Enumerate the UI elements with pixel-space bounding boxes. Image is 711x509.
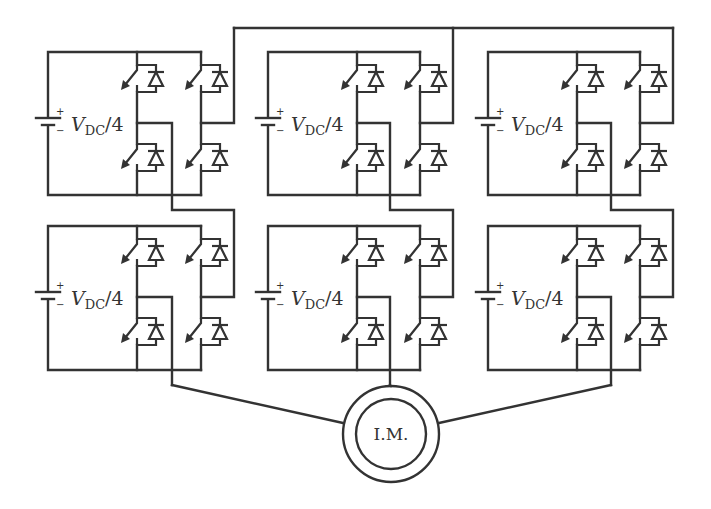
diode-bracket-top bbox=[137, 144, 156, 150]
igbt-switch bbox=[561, 318, 604, 345]
phase-output-wire bbox=[357, 297, 390, 385]
diode-bracket-bottom bbox=[577, 166, 596, 171]
igbt-emitter-diagonal bbox=[408, 239, 420, 259]
diode-bracket-bottom bbox=[420, 261, 439, 266]
diode-bracket-top bbox=[357, 65, 376, 71]
diode-triangle-icon bbox=[213, 72, 227, 86]
label-suffix: /4 bbox=[105, 287, 124, 309]
igbt-emitter-diagonal bbox=[408, 65, 420, 85]
igbt-switch bbox=[121, 144, 164, 171]
h-bridge-modules: +−VDC/4+−VDC/4+−VDC/4+−VDC/4+−VDC/4+−VDC… bbox=[36, 52, 667, 370]
diode-triangle-icon bbox=[213, 151, 227, 165]
igbt-switch bbox=[404, 65, 447, 92]
diode-triangle-icon bbox=[652, 246, 666, 260]
diode-bracket-bottom bbox=[420, 166, 439, 171]
label-subscript: DC bbox=[85, 297, 105, 312]
diode-bracket-top bbox=[357, 318, 376, 324]
igbt-switch bbox=[341, 318, 384, 345]
diode-triangle-icon bbox=[149, 246, 163, 260]
label-subscript: DC bbox=[525, 297, 545, 312]
igbt-switch bbox=[561, 239, 604, 266]
igbt-switch bbox=[341, 144, 384, 171]
battery-plus-sign: + bbox=[56, 106, 64, 117]
dc-source-label: VDC/4 bbox=[71, 113, 124, 138]
diode-bracket-bottom bbox=[357, 261, 376, 266]
diode-bracket-top bbox=[640, 239, 659, 245]
diode-bracket-bottom bbox=[577, 261, 596, 266]
dc-source-label: VDC/4 bbox=[291, 287, 344, 312]
igbt-emitter-diagonal bbox=[189, 318, 201, 338]
diode-bracket-top bbox=[420, 239, 439, 245]
igbt-emitter-diagonal bbox=[628, 144, 640, 164]
battery-minus-sign: − bbox=[276, 125, 284, 136]
motor-label: I.M. bbox=[374, 424, 409, 444]
diode-bracket-bottom bbox=[577, 87, 596, 92]
diode-bracket-bottom bbox=[640, 87, 659, 92]
label-subscript: DC bbox=[305, 123, 325, 138]
igbt-emitter-diagonal bbox=[628, 65, 640, 85]
igbt-emitter-diagonal bbox=[345, 144, 357, 164]
diode-bracket-bottom bbox=[357, 166, 376, 171]
igbt-emitter-diagonal bbox=[189, 65, 201, 85]
diode-bracket-top bbox=[137, 239, 156, 245]
label-subscript: DC bbox=[85, 123, 105, 138]
battery-minus-sign: − bbox=[496, 125, 504, 136]
igbt-switch bbox=[404, 318, 447, 345]
diode-bracket-bottom bbox=[420, 340, 439, 345]
diode-triangle-icon bbox=[369, 151, 383, 165]
igbt-emitter-diagonal bbox=[125, 239, 137, 259]
induction-motor: I.M. bbox=[343, 386, 439, 482]
igbt-switch bbox=[561, 144, 604, 171]
diode-triangle-icon bbox=[652, 72, 666, 86]
diode-triangle-icon bbox=[213, 246, 227, 260]
igbt-switch bbox=[121, 318, 164, 345]
igbt-switch bbox=[185, 239, 228, 266]
igbt-switch bbox=[185, 318, 228, 345]
motor-feed-phase-c bbox=[439, 385, 611, 423]
diode-triangle-icon bbox=[149, 325, 163, 339]
diode-bracket-top bbox=[201, 318, 220, 324]
diode-triangle-icon bbox=[589, 246, 603, 260]
diode-triangle-icon bbox=[652, 151, 666, 165]
cascaded-h-bridge-diagram: +−VDC/4+−VDC/4+−VDC/4+−VDC/4+−VDC/4+−VDC… bbox=[0, 0, 711, 509]
dc-source-label: VDC/4 bbox=[291, 113, 344, 138]
diode-bracket-top bbox=[577, 318, 596, 324]
diode-bracket-bottom bbox=[137, 340, 156, 345]
diode-bracket-top bbox=[137, 65, 156, 71]
diode-triangle-icon bbox=[432, 325, 446, 339]
igbt-emitter-diagonal bbox=[345, 318, 357, 338]
label-subscript: DC bbox=[525, 123, 545, 138]
phase-output-wire bbox=[137, 297, 172, 385]
dc-source-label: VDC/4 bbox=[511, 287, 564, 312]
igbt-switch bbox=[121, 239, 164, 266]
diode-triangle-icon bbox=[432, 246, 446, 260]
igbt-switch bbox=[624, 65, 667, 92]
diode-bracket-bottom bbox=[137, 166, 156, 171]
igbt-switch bbox=[561, 65, 604, 92]
h-bridge-module: +−VDC/4 bbox=[256, 226, 447, 370]
igbt-emitter-diagonal bbox=[408, 318, 420, 338]
diode-bracket-bottom bbox=[137, 261, 156, 266]
phase-output-wire bbox=[577, 297, 611, 385]
diode-triangle-icon bbox=[369, 246, 383, 260]
diode-bracket-bottom bbox=[357, 87, 376, 92]
diode-triangle-icon bbox=[213, 325, 227, 339]
diode-bracket-top bbox=[577, 239, 596, 245]
igbt-switch bbox=[404, 144, 447, 171]
igbt-switch bbox=[624, 144, 667, 171]
label-suffix: /4 bbox=[325, 113, 344, 135]
battery-minus-sign: − bbox=[56, 125, 64, 136]
diode-triangle-icon bbox=[149, 151, 163, 165]
diode-bracket-bottom bbox=[201, 261, 220, 266]
diode-triangle-icon bbox=[652, 325, 666, 339]
igbt-emitter-diagonal bbox=[628, 318, 640, 338]
diode-bracket-top bbox=[640, 318, 659, 324]
h-bridge-module: +−VDC/4 bbox=[476, 52, 667, 195]
igbt-emitter-diagonal bbox=[345, 65, 357, 85]
igbt-emitter-diagonal bbox=[189, 239, 201, 259]
igbt-emitter-diagonal bbox=[125, 144, 137, 164]
battery-minus-sign: − bbox=[56, 299, 64, 310]
igbt-emitter-diagonal bbox=[125, 65, 137, 85]
igbt-switch bbox=[404, 239, 447, 266]
diode-bracket-top bbox=[357, 144, 376, 150]
